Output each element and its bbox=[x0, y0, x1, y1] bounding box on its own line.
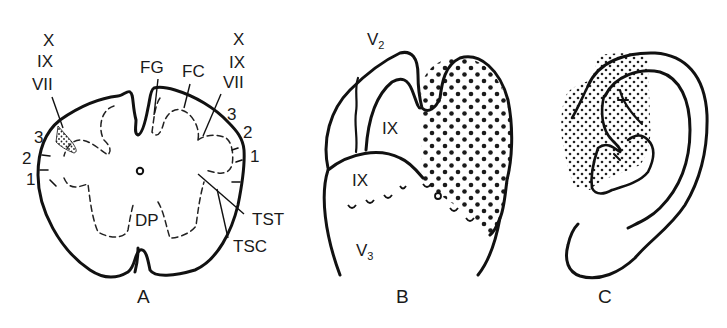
lamina-ticks-left bbox=[40, 155, 56, 186]
label-v2: V2 bbox=[367, 30, 384, 51]
label-2-right: 2 bbox=[243, 123, 252, 142]
label-3-right: 3 bbox=[227, 105, 236, 124]
label-1-left: 1 bbox=[26, 170, 35, 189]
panel-label-b: B bbox=[396, 286, 409, 307]
label-tst: TST bbox=[252, 210, 284, 229]
panel-b: V2 IX IX V3 B bbox=[324, 30, 520, 307]
panel-label-c: C bbox=[598, 286, 612, 307]
stippled-region-ear bbox=[561, 53, 650, 190]
anatomical-figure: X IX VII X IX VII 3 2 1 3 2 1 FG FC DP T… bbox=[0, 0, 727, 328]
label-ix-right: IX bbox=[229, 53, 245, 72]
label-vii-left: VII bbox=[32, 75, 53, 94]
label-fc: FC bbox=[182, 62, 205, 81]
panel-label-a: A bbox=[137, 286, 150, 307]
panel-a: X IX VII X IX VII 3 2 1 3 2 1 FG FC DP T… bbox=[22, 30, 284, 307]
leader-vii-right bbox=[203, 94, 221, 136]
label-dp: DP bbox=[135, 211, 159, 230]
panel-c: C bbox=[561, 53, 707, 307]
gray-matter-boundary-dorsal bbox=[152, 98, 198, 140]
label-tsc: TSC bbox=[233, 237, 267, 256]
figure-canvas: X IX VII X IX VII 3 2 1 3 2 1 FG FC DP T… bbox=[0, 0, 727, 328]
left-lobe-divider bbox=[355, 78, 358, 152]
label-ix-upper: IX bbox=[382, 119, 398, 138]
gray-matter-boundary-ventral bbox=[64, 178, 204, 238]
label-ix-left: IX bbox=[37, 52, 53, 71]
label-1-right: 1 bbox=[250, 147, 259, 166]
label-x-left: X bbox=[43, 31, 54, 50]
arc-ring bbox=[435, 193, 441, 199]
stippled-region-left bbox=[56, 126, 76, 153]
central-canal bbox=[137, 168, 143, 174]
v3-region-outline bbox=[324, 153, 423, 275]
gray-matter-boundary-right bbox=[198, 135, 233, 173]
stippled-region-right-lobe bbox=[415, 50, 520, 240]
label-v3: V3 bbox=[356, 241, 373, 262]
label-vii-right: VII bbox=[223, 73, 244, 92]
medulla-outline bbox=[38, 87, 244, 277]
inner-ear-fold-b bbox=[366, 79, 420, 150]
label-3-left: 3 bbox=[34, 128, 43, 147]
label-2-left: 2 bbox=[22, 149, 31, 168]
label-ix-lower: IX bbox=[352, 171, 368, 190]
label-fg: FG bbox=[140, 58, 164, 77]
leader-tsc bbox=[217, 189, 228, 238]
lamina-ticks-right bbox=[232, 148, 242, 182]
label-x-right: X bbox=[233, 30, 244, 49]
